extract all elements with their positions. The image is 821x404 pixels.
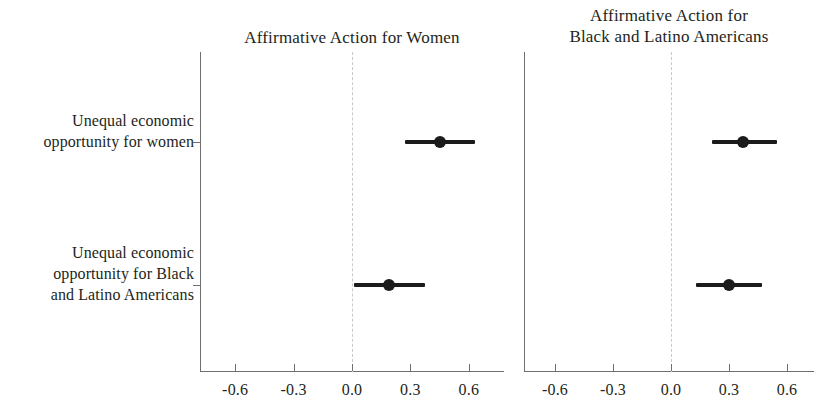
estimate-point	[737, 136, 749, 148]
x-tick-label: -0.6	[542, 381, 568, 399]
x-tick-mark	[235, 364, 236, 371]
zero-reference-line	[352, 52, 353, 372]
estimate-point	[723, 279, 735, 291]
estimate-point	[383, 279, 395, 291]
y-axis-label-unequal-opportunity-black-latino: Unequal economic opportunity for Black a…	[51, 242, 194, 305]
x-tick-label: -0.6	[222, 381, 248, 399]
y-axis-line	[524, 52, 525, 372]
x-tick-mark	[469, 364, 470, 371]
x-tick-label: 0.6	[777, 381, 798, 399]
y-tick-mark	[193, 142, 200, 143]
x-tick-mark	[352, 364, 353, 371]
x-tick-mark	[671, 364, 672, 371]
x-tick-mark	[787, 364, 788, 371]
y-axis-label-group: Unequal economic opportunity for women U…	[0, 0, 194, 404]
x-tick-label: 0.3	[719, 381, 740, 399]
x-tick-label: -0.3	[600, 381, 626, 399]
x-tick-label: 0.3	[400, 381, 421, 399]
x-tick-label: -0.3	[281, 381, 307, 399]
panel-title-affirmative-action-women: Affirmative Action for Women	[200, 27, 504, 48]
x-tick-label: 0.6	[458, 381, 479, 399]
y-axis-label-unequal-opportunity-women: Unequal economic opportunity for women	[43, 110, 194, 152]
panel-title-affirmative-action-black-latino: Affirmative Action for Black and Latino …	[524, 5, 814, 47]
zero-reference-line	[671, 52, 672, 372]
panel-left: -0.6 -0.3 0.0 0.3 0.6	[200, 52, 504, 372]
y-tick-mark	[193, 285, 200, 286]
x-tick-label: 0.0	[342, 381, 363, 399]
x-tick-mark	[729, 364, 730, 371]
x-tick-mark	[410, 364, 411, 371]
estimate-point	[434, 136, 446, 148]
x-tick-mark	[294, 364, 295, 371]
x-axis-line	[524, 371, 814, 372]
y-axis-line	[200, 52, 201, 372]
coefficient-plot-figure: Unequal economic opportunity for women U…	[0, 0, 821, 404]
panel-right: -0.6 -0.3 0.0 0.3 0.6	[524, 52, 814, 372]
x-tick-label: 0.0	[661, 381, 682, 399]
x-tick-mark	[555, 364, 556, 371]
x-tick-mark	[613, 364, 614, 371]
